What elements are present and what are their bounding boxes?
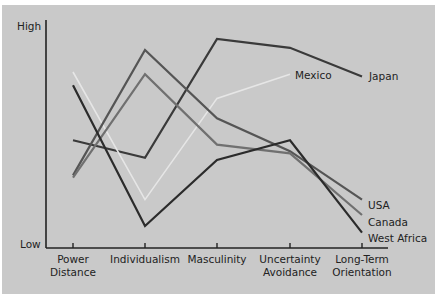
series-label-canada: Canada: [368, 216, 408, 228]
series-label-west-africa: West Africa: [368, 232, 427, 244]
series-label-mexico: Mexico: [295, 69, 332, 81]
y-axis-high-label: High: [17, 20, 41, 32]
series-label-japan: Japan: [368, 70, 398, 82]
series-line-west-africa: [73, 85, 362, 232]
line-chart: High Low PowerDistanceIndividualismMascu…: [0, 0, 435, 294]
x-category-label: Distance: [50, 266, 96, 278]
series-line-canada: [73, 74, 362, 215]
x-category-label: Orientation: [332, 266, 391, 278]
series-label-usa: USA: [368, 199, 391, 211]
x-category-label: Avoidance: [263, 266, 317, 278]
x-category-label: Long-Term: [335, 253, 389, 265]
series-labels: JapanMexicoUSACanadaWest Africa: [295, 69, 427, 244]
x-category-label: Masculinity: [187, 253, 246, 265]
y-axis-low-label: Low: [20, 238, 41, 250]
x-category-label: Individualism: [110, 253, 180, 265]
x-category-label: Uncertainty: [259, 253, 320, 265]
x-category-label: Power: [57, 253, 89, 265]
